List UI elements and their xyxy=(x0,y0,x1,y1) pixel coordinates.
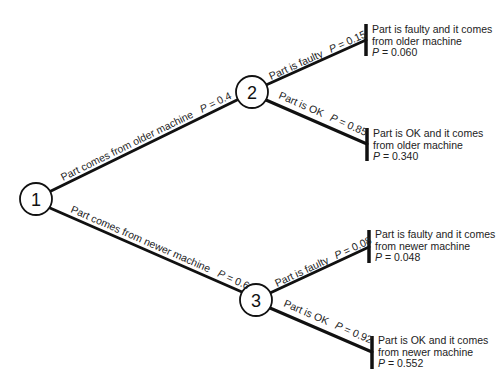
branch-label-newer-ok: Part is OK P = 0.92 xyxy=(282,297,374,346)
chance-node-1: 1 xyxy=(20,183,52,215)
node-2-label: 2 xyxy=(247,83,257,103)
outcome-4-p-value: = 0.552 xyxy=(385,357,423,369)
outcome-newer-ok: Part is OK and it comes from newer machi… xyxy=(378,334,488,369)
svg-text:Part is OK P = 0.: Part is OK P = 0.85 xyxy=(277,89,369,138)
outcome-1-line1: Part is faulty and it comes xyxy=(372,23,492,35)
outcome-3-line2: from newer machine xyxy=(375,240,470,252)
outcome-4-line2: from newer machine xyxy=(378,346,473,358)
branch-newer-faulty-text: Part is faulty xyxy=(273,253,331,289)
branch-label-newer-faulty: Part is faulty P = 0.08 xyxy=(273,234,374,289)
svg-text:P = 0.340: P = 0.340 xyxy=(373,150,418,162)
outcome-3-p-value: = 0.048 xyxy=(382,251,420,263)
chance-node-2: 2 xyxy=(236,76,268,108)
edge-newer-faulty xyxy=(270,247,369,293)
edge-older-machine xyxy=(51,100,237,191)
branch-label-older-ok: Part is OK P = 0.85 xyxy=(277,89,369,138)
svg-text:Part comes from older machine: Part comes from older machine P = 0.4 xyxy=(59,89,234,183)
outcome-2-line2: from older machine xyxy=(373,139,463,151)
branch-older-faulty-text: Part is faulty xyxy=(267,47,325,82)
edge-newer-machine xyxy=(50,208,242,292)
svg-text:Part is OK P = 0.: Part is OK P = 0.92 xyxy=(282,297,374,346)
svg-text:Part is faulty P: Part is faulty P = 0.08 xyxy=(273,234,374,289)
svg-text:P = 0.048: P = 0.048 xyxy=(375,251,420,263)
outcome-newer-faulty: Part is faulty and it comes from newer m… xyxy=(375,228,495,263)
node-3-label: 3 xyxy=(251,291,261,311)
branch-newer-p-value: = 0.6 xyxy=(225,271,252,292)
branch-label-older-faulty: Part is faulty P = 0.15 xyxy=(267,28,368,82)
svg-text:P = 0.552: P = 0.552 xyxy=(378,357,423,369)
svg-text:Part comes from newer machine: Part comes from newer machine P = 0.6 xyxy=(69,203,251,292)
outcome-1-p-value: = 0.060 xyxy=(379,46,417,58)
outcome-2-line1: Part is OK and it comes xyxy=(373,127,483,139)
outcome-4-p-symbol: P xyxy=(378,357,385,369)
branch-newer-text: Part comes from newer machine xyxy=(69,203,212,275)
outcome-2-p-symbol: P xyxy=(373,150,380,162)
outcome-older-faulty: Part is faulty and it comes from older m… xyxy=(372,23,492,58)
outcome-older-ok: Part is OK and it comes from older machi… xyxy=(373,127,483,162)
outcome-3-p-symbol: P xyxy=(375,251,382,263)
outcome-1-p-symbol: P xyxy=(372,46,379,58)
outcome-2-p-value: = 0.340 xyxy=(380,150,418,162)
probability-tree-diagram: 1 2 3 Part comes from older machine P = … xyxy=(0,0,504,390)
node-1-label: 1 xyxy=(31,190,41,210)
branch-older-text: Part comes from older machine xyxy=(59,108,195,183)
outcome-4-line1: Part is OK and it comes xyxy=(378,334,488,346)
edge-older-faulty xyxy=(266,40,366,85)
svg-text:P = 0.060: P = 0.060 xyxy=(372,46,417,58)
svg-text:Part is faulty P: Part is faulty P = 0.15 xyxy=(267,28,368,82)
outcome-1-line2: from older machine xyxy=(372,35,462,47)
branch-label-newer: Part comes from newer machine P = 0.6 xyxy=(69,203,251,292)
outcome-3-line1: Part is faulty and it comes xyxy=(375,228,495,240)
branch-label-older: Part comes from older machine P = 0.4 xyxy=(59,89,234,183)
